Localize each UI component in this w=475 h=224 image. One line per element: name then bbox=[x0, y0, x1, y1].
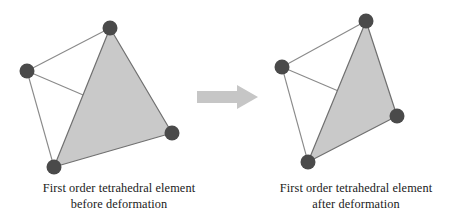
caption-before-line2: before deformation bbox=[0, 197, 238, 213]
caption-after: First order tetrahedral element after de… bbox=[237, 181, 475, 212]
caption-before-line1: First order tetrahedral element bbox=[0, 181, 238, 197]
figure-tetrahedral-deformation: First order tetrahedral element before d… bbox=[0, 0, 475, 224]
caption-before: First order tetrahedral element before d… bbox=[0, 181, 238, 212]
node-right[interactable] bbox=[165, 126, 180, 141]
node-bottom[interactable] bbox=[47, 160, 62, 175]
node-top[interactable] bbox=[359, 14, 374, 29]
tetrahedron-shaded-face bbox=[54, 28, 172, 167]
node-left[interactable] bbox=[20, 64, 35, 79]
node-left[interactable] bbox=[275, 60, 290, 75]
tetrahedron-after-diagram bbox=[237, 0, 475, 182]
caption-after-line1: First order tetrahedral element bbox=[237, 181, 475, 197]
node-top[interactable] bbox=[103, 21, 118, 36]
panel-before-deformation: First order tetrahedral element before d… bbox=[0, 0, 238, 224]
node-bottom[interactable] bbox=[301, 155, 316, 170]
tetrahedron-shaded-face bbox=[308, 21, 397, 162]
panel-after-deformation: First order tetrahedral element after de… bbox=[237, 0, 475, 224]
edge-left-bottom bbox=[27, 71, 54, 167]
node-right[interactable] bbox=[390, 109, 405, 124]
caption-after-line2: after deformation bbox=[237, 197, 475, 213]
edge-left-bottom bbox=[282, 67, 308, 162]
